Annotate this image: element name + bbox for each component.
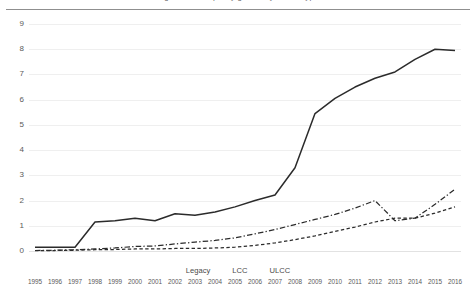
legend-label: LCC <box>232 266 247 275</box>
x-axis-tick-label: 1996 <box>44 278 66 286</box>
x-axis-tick-label: 2009 <box>304 278 326 286</box>
series-line-lcc <box>35 189 455 250</box>
x-axis-tick-label: 2000 <box>124 278 146 286</box>
series-line-ulcc <box>35 207 455 251</box>
header-divider <box>6 9 470 10</box>
y-axis-tick-label: 5 <box>2 121 24 129</box>
x-axis-tick-label: 2012 <box>364 278 386 286</box>
y-axis-tick-label: 7 <box>2 70 24 78</box>
x-axis-tick-label: 2007 <box>264 278 286 286</box>
x-axis-tick-label: 2001 <box>144 278 166 286</box>
x-axis-tick-label: 2014 <box>404 278 426 286</box>
y-axis-tick-label: 8 <box>2 45 24 53</box>
chart-legend: LegacyLCCULCC <box>0 266 476 275</box>
x-axis-tick-label: 1998 <box>84 278 106 286</box>
x-axis-tick-label: 2006 <box>244 278 266 286</box>
y-axis-tick-label: 6 <box>2 96 24 104</box>
plot-area: 0123456789 19951996199719981999200020012… <box>29 24 461 251</box>
y-axis-tick-label: 1 <box>2 222 24 230</box>
chart-figure: Figure: seat capacity growth by carrier … <box>0 0 476 290</box>
x-axis-tick-label: 2008 <box>284 278 306 286</box>
figure-title-band: Figure: seat capacity growth by carrier … <box>0 0 476 9</box>
gridline <box>29 251 461 252</box>
legend-entry-lcc[interactable]: LCC <box>232 266 247 275</box>
y-axis-tick-label: 9 <box>2 20 24 28</box>
x-axis-tick-label: 2013 <box>384 278 406 286</box>
x-axis-tick-label: 2005 <box>224 278 246 286</box>
y-axis-tick-label: 2 <box>2 197 24 205</box>
figure-title-fragment: Figure: seat capacity growth by carrier … <box>0 0 476 1</box>
x-axis-tick-label: 2016 <box>444 278 466 286</box>
y-axis-tick-label: 4 <box>2 146 24 154</box>
y-axis-tick-label: 0 <box>2 247 24 255</box>
x-axis-tick-label: 2011 <box>344 278 366 286</box>
legend-entry-ulcc[interactable]: ULCC <box>270 266 291 275</box>
x-axis-tick-label: 1997 <box>64 278 86 286</box>
x-axis-tick-label: 2010 <box>324 278 346 286</box>
x-axis-tick-label: 1999 <box>104 278 126 286</box>
legend-label: ULCC <box>270 266 291 275</box>
x-axis-tick-label: 2015 <box>424 278 446 286</box>
x-axis-tick-label: 2003 <box>184 278 206 286</box>
series-lines <box>29 24 461 251</box>
x-axis-tick-label: 1995 <box>24 278 46 286</box>
legend-entry-legacy[interactable]: Legacy <box>186 266 211 275</box>
x-axis-tick-label: 2002 <box>164 278 186 286</box>
x-axis-tick-label: 2004 <box>204 278 226 286</box>
legend-label: Legacy <box>186 266 211 275</box>
y-axis-tick-label: 3 <box>2 171 24 179</box>
